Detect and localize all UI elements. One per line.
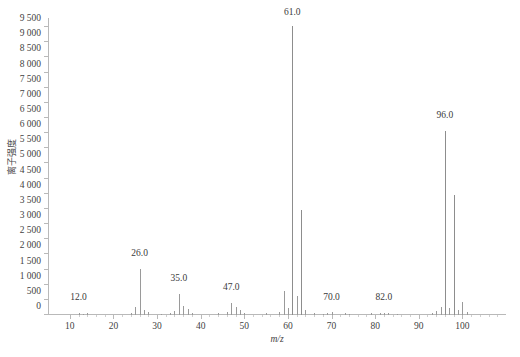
x-axis-tick-label: 50	[240, 321, 250, 331]
spectrum-peak	[449, 308, 450, 315]
y-axis-tick-label: 7 000	[0, 89, 41, 98]
x-axis-minor-tick	[384, 315, 385, 317]
y-axis-tick-label: 4 500	[0, 165, 41, 174]
spectrum-peak	[192, 313, 193, 315]
x-axis-minor-tick	[427, 315, 428, 317]
spectrum-peak	[301, 210, 302, 315]
peak-annotation-26-0: 26.0	[131, 248, 148, 258]
x-axis-minor-tick	[166, 315, 167, 317]
x-axis-minor-tick	[305, 315, 306, 317]
x-axis-minor-tick	[489, 315, 490, 317]
y-axis-tick	[44, 178, 48, 179]
spectrum-peak	[323, 314, 324, 316]
spectrum-peak	[332, 312, 333, 315]
x-axis-minor-tick	[314, 315, 315, 317]
x-axis-tick	[332, 315, 333, 319]
x-axis-minor-tick	[454, 315, 455, 317]
x-axis-tick-label: 60	[283, 321, 293, 331]
peak-annotation-96-0: 96.0	[437, 110, 454, 120]
x-axis-minor-tick	[105, 315, 106, 317]
y-axis-tick-label: 5 500	[0, 135, 41, 144]
spectrum-peak	[140, 269, 141, 315]
spectrum-peak	[388, 313, 389, 315]
spectrum-peak	[183, 306, 184, 315]
y-axis-tick-label: 3 500	[0, 195, 41, 204]
spectrum-peak	[240, 310, 241, 315]
y-axis-tick-label: 3 000	[0, 211, 41, 220]
spectrum-peak	[458, 310, 459, 315]
spectrum-peak	[236, 307, 237, 315]
y-axis-tick	[44, 208, 48, 209]
spectrum-peak	[441, 307, 442, 315]
y-axis-tick	[44, 26, 48, 27]
y-axis-tick-label: 2 500	[0, 226, 41, 235]
y-axis-tick	[44, 299, 48, 300]
spectrum-peak	[297, 296, 298, 315]
x-axis-tick	[288, 315, 289, 319]
spectrum-peak	[227, 312, 228, 315]
spectrum-peak	[161, 314, 162, 316]
spectrum-peak	[87, 313, 88, 315]
spectrum-peak	[349, 314, 350, 316]
x-axis-tick	[462, 315, 463, 319]
peak-annotation-12-0: 12.0	[70, 292, 87, 302]
spectrum-peak	[380, 313, 381, 315]
x-axis-minor-tick	[393, 315, 394, 317]
y-axis-tick	[44, 253, 48, 254]
x-axis-minor-tick	[471, 315, 472, 317]
spectrum-peak	[179, 294, 180, 315]
plot-area: m/z 05001 0001 5002 0002 5003 0003 5004 …	[48, 18, 506, 315]
spectrum-peak	[174, 311, 175, 315]
spectrum-peak	[384, 313, 385, 315]
spectrum-peak	[131, 313, 132, 315]
x-axis-tick-label: 70	[327, 321, 337, 331]
y-axis-tick	[44, 223, 48, 224]
x-axis-minor-tick	[401, 315, 402, 317]
x-axis-minor-tick	[87, 315, 88, 317]
x-axis-minor-tick	[410, 315, 411, 317]
y-axis-tick-label: 1 500	[0, 256, 41, 265]
x-axis-tick	[157, 315, 158, 319]
spectrum-peak	[244, 313, 245, 315]
peak-annotation-70-0: 70.0	[323, 292, 340, 302]
x-axis-minor-tick	[253, 315, 254, 317]
x-axis-tick-label: 80	[370, 321, 380, 331]
y-axis-tick-label: 7 500	[0, 74, 41, 83]
peak-annotation-47-0: 47.0	[223, 282, 240, 292]
y-axis-tick-label: 500	[0, 286, 41, 295]
x-axis-tick-label: 30	[152, 321, 162, 331]
y-axis-tick-label: 8 500	[0, 44, 41, 53]
y-axis-tick	[44, 132, 48, 133]
x-axis-minor-tick	[358, 315, 359, 317]
y-axis-tick-label: 8 000	[0, 59, 41, 68]
x-axis-minor-tick	[227, 315, 228, 317]
spectrum-peak	[148, 312, 149, 315]
spectrum-peak	[170, 313, 171, 315]
spectrum-peak	[454, 195, 455, 315]
spectrum-peak	[284, 291, 285, 315]
spectrum-peak	[371, 313, 372, 315]
x-axis-tick-label: 20	[109, 321, 119, 331]
x-axis-tick	[244, 315, 245, 319]
mass-spectrum-figure: 离子强度 m/z 05001 0001 5002 0002 5003 0003 …	[0, 0, 520, 357]
x-axis-minor-tick	[366, 315, 367, 317]
x-axis-line	[48, 314, 506, 315]
spectrum-peak	[135, 307, 136, 315]
peak-annotation-82-0: 82.0	[376, 292, 393, 302]
spectrum-peak	[436, 311, 437, 315]
x-axis-minor-tick	[209, 315, 210, 317]
x-axis-minor-tick	[480, 315, 481, 317]
spectrum-peak	[83, 314, 84, 315]
y-axis-tick	[44, 72, 48, 73]
x-axis-tick	[70, 315, 71, 319]
y-axis-tick	[44, 147, 48, 148]
x-axis-minor-tick	[340, 315, 341, 317]
x-axis-minor-tick	[148, 315, 149, 317]
x-axis-minor-tick	[218, 315, 219, 317]
y-axis-tick	[44, 284, 48, 285]
x-axis-tick-label: 90	[414, 321, 424, 331]
x-axis-tick	[113, 315, 114, 319]
x-axis-title: m/z	[48, 334, 506, 344]
y-axis-tick-label: 6 000	[0, 120, 41, 129]
spectrum-peak	[345, 313, 346, 315]
